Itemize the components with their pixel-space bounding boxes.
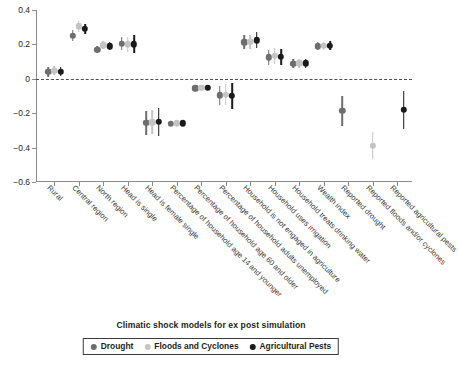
data-marker <box>400 107 406 113</box>
data-marker <box>278 54 284 60</box>
data-marker <box>253 37 259 43</box>
y-tick-label: −0.6 <box>13 178 30 187</box>
y-tick-label: 0 <box>25 75 30 84</box>
data-marker <box>327 43 333 49</box>
chart-caption: Climatic shock models for ex post simula… <box>0 320 422 330</box>
x-axis-labels: RuralCentral regionNorth regionHead is s… <box>36 184 422 312</box>
data-marker <box>302 60 308 66</box>
data-marker <box>229 93 235 99</box>
legend-item[interactable]: Floods and Cyclones <box>144 342 238 351</box>
y-tick-mark <box>32 113 36 114</box>
chart-legend: DroughtFloods and CyclonesAgricultural P… <box>83 338 339 355</box>
y-tick-mark <box>32 44 36 45</box>
legend-item[interactable]: Agricultural Pests <box>250 342 332 351</box>
y-tick-label: −0.4 <box>13 143 30 152</box>
data-marker <box>131 41 137 47</box>
data-marker <box>57 69 63 75</box>
data-marker <box>180 120 186 126</box>
legend-item[interactable]: Drought <box>91 342 134 351</box>
x-axis-label: Rural <box>46 184 64 202</box>
plot-area: 0.40.20−0.2−0.4−0.6 <box>36 10 412 182</box>
legend-dot-icon <box>91 344 97 350</box>
data-marker <box>339 107 345 113</box>
data-marker <box>106 43 112 49</box>
legend-label: Agricultural Pests <box>260 342 332 351</box>
y-tick-mark <box>32 148 36 149</box>
y-tick-mark <box>32 79 36 80</box>
legend-dot-icon <box>250 344 256 350</box>
y-tick-label: −0.2 <box>13 109 30 118</box>
legend-dot-icon <box>144 344 150 350</box>
data-marker <box>204 85 210 91</box>
data-marker <box>155 119 161 125</box>
y-tick-mark <box>32 182 36 183</box>
data-marker <box>370 143 376 149</box>
y-axis-line <box>36 10 37 182</box>
zero-reference-line <box>36 79 412 80</box>
legend-label: Floods and Cyclones <box>154 342 238 351</box>
data-marker <box>82 26 88 32</box>
data-marker <box>94 46 100 52</box>
y-tick-mark <box>32 10 36 11</box>
data-marker <box>69 33 75 39</box>
y-tick-label: 0.4 <box>18 6 30 15</box>
legend-label: Drought <box>101 342 134 351</box>
y-tick-label: 0.2 <box>18 40 30 49</box>
x-axis-line <box>36 181 412 182</box>
